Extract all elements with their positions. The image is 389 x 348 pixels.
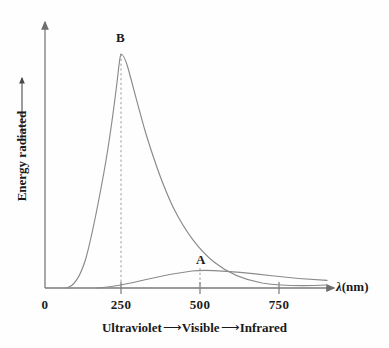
spectrum-arrow-2: ⟶ [220,320,240,335]
x-axis-title: λ(nm) [336,279,369,295]
x-tick-label-250: 250 [106,297,136,313]
spectrum-arrow-1: ⟶ [162,320,182,335]
blackbody-radiation-figure: Energy radiated λ(nm) 0 250 500 750 B A … [0,0,389,348]
y-axis-title: Energy radiated [14,96,30,216]
plot-area [0,0,389,348]
x-axis-unit: (nm) [342,279,369,294]
x-tick-label-750: 750 [264,297,294,313]
curve-label-b: B [116,30,125,46]
spectrum-caption: Ultraviolet⟶Visible⟶Infrared [0,320,389,336]
spectrum-infrared-label: Infrared [240,320,287,335]
x-tick-label-500: 500 [185,297,215,313]
spectrum-visible-label: Visible [182,320,220,335]
spectrum-ultraviolet-label: Ultraviolet [102,320,162,335]
curve-label-a: A [196,252,205,268]
x-tick-label-0: 0 [36,297,54,313]
